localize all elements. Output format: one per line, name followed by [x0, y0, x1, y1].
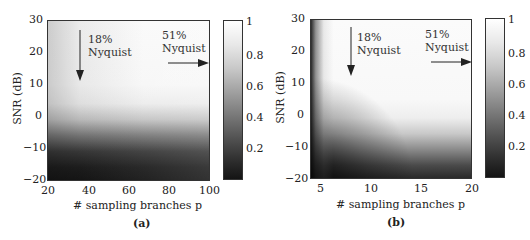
caption-a: (a) [133, 217, 151, 230]
xtick-b-15: 15 [414, 182, 428, 195]
ytick-b-m10: −10 [285, 140, 308, 153]
arrow-right-icon [168, 58, 210, 68]
annotation-18pct-a: 18% Nyquist [88, 33, 132, 59]
ytick-b-10: 10 [291, 76, 305, 89]
ytick-b-m20: −20 [285, 172, 308, 185]
xtick-a-20: 20 [41, 184, 55, 197]
colorbar-b [485, 18, 505, 178]
xlabel-a: # sampling branches p [73, 199, 202, 212]
cbtick-b-02: 0.2 [508, 140, 526, 153]
cbtick-a-04: 0.4 [246, 111, 264, 124]
ytick-a-20: 20 [29, 45, 43, 58]
arrow-down-icon [74, 30, 86, 82]
ytick-b-20: 20 [291, 44, 305, 57]
colorbar-a [223, 20, 243, 180]
caption-b: (b) [387, 216, 405, 229]
cbtick-a-06: 0.6 [246, 80, 264, 93]
cbtick-a-08: 0.8 [246, 49, 264, 62]
cbtick-b-04: 0.4 [508, 109, 526, 122]
xtick-b-5: 5 [317, 182, 324, 195]
cbtick-b-08: 0.8 [508, 47, 526, 60]
xtick-b-20: 20 [465, 182, 479, 195]
cbtick-b-1: 1 [508, 13, 515, 26]
ylabel-b: SNR (dB) [274, 68, 287, 128]
xtick-a-60: 60 [122, 184, 136, 197]
ytick-b-0: 0 [297, 108, 304, 121]
arrow-right-icon [431, 57, 473, 67]
ylabel-a: SNR (dB) [11, 69, 24, 129]
xtick-a-100: 100 [199, 184, 220, 197]
cbtick-a-02: 0.2 [246, 142, 264, 155]
xlabel-b: # sampling branches p [336, 198, 465, 211]
xtick-a-80: 80 [162, 184, 176, 197]
annotation-51pct-b: 51% Nyquist [425, 28, 469, 54]
cbtick-a-1: 1 [246, 15, 253, 28]
annotation-51pct-a: 51% Nyquist [162, 29, 206, 55]
ytick-a-m10: −10 [23, 141, 46, 154]
cbtick-b-06: 0.6 [508, 78, 526, 91]
xtick-a-40: 40 [82, 184, 96, 197]
ytick-a-30: 30 [29, 13, 43, 26]
ytick-a-10: 10 [29, 77, 43, 90]
annotation-18pct-b: 18% Nyquist [357, 31, 401, 57]
ytick-b-30: 30 [291, 12, 305, 25]
ytick-a-0: 0 [35, 109, 42, 122]
xtick-b-10: 10 [364, 182, 378, 195]
arrow-down-icon [345, 27, 357, 77]
